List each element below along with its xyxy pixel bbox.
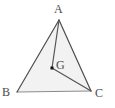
vertex-label-b: B: [2, 86, 10, 98]
vertex-label-g: G: [56, 59, 65, 71]
vertex-label-c: C: [95, 87, 103, 99]
vertex-label-a: A: [54, 3, 63, 15]
point-g-marker: [51, 67, 54, 70]
geometry-figure: A B C G: [0, 0, 115, 108]
